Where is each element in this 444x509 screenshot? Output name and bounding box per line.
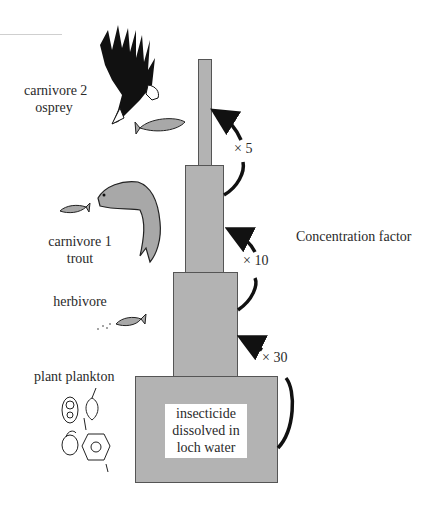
label-herbivore: herbivore: [50, 293, 110, 310]
level-name: carnivore 1: [40, 233, 120, 250]
arrow-x5-upper: [219, 114, 241, 140]
level-name: herbivore: [50, 293, 110, 310]
arrow-x30-lower: [278, 378, 292, 448]
label-plant-plankton: plant plankton: [34, 368, 114, 385]
arrow-x10-upper: [234, 232, 255, 252]
arrow-x10-lower: [238, 278, 256, 310]
herbivore-fish-icon: [97, 314, 146, 330]
small-fish-icon-trout-prey: [60, 203, 90, 213]
level-organism: trout: [40, 250, 120, 267]
factor-x5: × 5: [234, 141, 252, 157]
factor-x30: × 30: [262, 350, 287, 366]
label-carnivore-1: carnivore 1 trout: [40, 233, 120, 267]
arrow-x5-lower: [224, 162, 243, 195]
factor-x10: × 10: [243, 253, 268, 269]
label-carnivore-2: carnivore 2 osprey: [24, 82, 84, 116]
level-name: carnivore 2: [24, 82, 84, 99]
fish-icon-osprey-prey: [135, 119, 185, 134]
arrow-x30-upper: [246, 340, 262, 350]
plankton-icon: [62, 388, 110, 472]
concentration-factor-title: Concentration factor: [296, 228, 411, 245]
level-organism: osprey: [24, 99, 84, 116]
osprey-icon: [100, 25, 159, 124]
level-name: plant plankton: [34, 368, 114, 385]
